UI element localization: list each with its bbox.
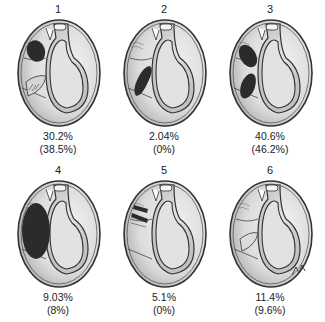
value: 5.1% bbox=[110, 291, 218, 304]
panel-number: 6 bbox=[216, 164, 324, 176]
value-paren: (0%) bbox=[110, 304, 218, 317]
panel-5: 5 5.1% (0%) bbox=[110, 161, 218, 322]
glenoid-diagram bbox=[122, 18, 208, 128]
panel-6: 6 11.4% (9.6%) bbox=[216, 161, 324, 322]
panel-4: 4 9.03% (8%) bbox=[4, 161, 112, 322]
panel-number: 1 bbox=[4, 3, 112, 15]
percentage-label: 9.03% (8%) bbox=[4, 291, 112, 317]
panel-1: 1 30.2% (38.5%) bbox=[4, 0, 112, 161]
value-paren: (38.5%) bbox=[4, 143, 112, 156]
percentage-label: 5.1% (0%) bbox=[110, 291, 218, 317]
value-paren: (0%) bbox=[110, 143, 218, 156]
value-paren: (46.2%) bbox=[216, 143, 324, 156]
percentage-label: 2.04% (0%) bbox=[110, 130, 218, 156]
value: 30.2% bbox=[4, 130, 112, 143]
glenoid-diagram bbox=[228, 18, 314, 128]
panel-number: 2 bbox=[110, 3, 218, 15]
panel-3: 3 40.6% (46.2%) bbox=[216, 0, 324, 161]
glenoid-diagram bbox=[228, 179, 314, 289]
glenoid-diagram bbox=[16, 18, 102, 128]
lesion-dark-large bbox=[22, 203, 50, 259]
value: 2.04% bbox=[110, 130, 218, 143]
value-paren: (8%) bbox=[4, 304, 112, 317]
panel-2: 2 2.04% (0%) bbox=[110, 0, 218, 161]
percentage-label: 11.4% (9.6%) bbox=[216, 291, 324, 317]
value-paren: (9.6%) bbox=[216, 304, 324, 317]
value: 11.4% bbox=[216, 291, 324, 304]
panel-number: 4 bbox=[4, 164, 112, 176]
panel-number: 3 bbox=[216, 3, 324, 15]
value: 9.03% bbox=[4, 291, 112, 304]
panel-number: 5 bbox=[110, 164, 218, 176]
glenoid-diagram bbox=[16, 179, 102, 289]
value: 40.6% bbox=[216, 130, 324, 143]
percentage-label: 30.2% (38.5%) bbox=[4, 130, 112, 156]
percentage-label: 40.6% (46.2%) bbox=[216, 130, 324, 156]
glenoid-diagram bbox=[122, 179, 208, 289]
